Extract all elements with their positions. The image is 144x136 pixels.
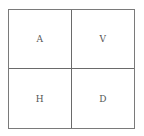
cell-d: D — [72, 69, 135, 128]
quadrant-grid: A V H D — [8, 9, 135, 129]
cell-v: V — [72, 10, 135, 69]
cell-label: V — [100, 34, 107, 44]
cell-label: A — [37, 34, 44, 44]
cell-label: H — [36, 94, 44, 104]
cell-a: A — [9, 10, 72, 69]
cell-h: H — [9, 69, 72, 128]
cell-label: D — [99, 94, 106, 104]
